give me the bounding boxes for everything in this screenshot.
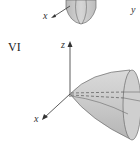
panel-label: VI [8, 41, 21, 53]
bottom-z-axis-label: z [61, 40, 65, 50]
figure-canvas [0, 0, 140, 155]
top-paraboloid [51, 0, 96, 24]
top-y-axis-label: y [131, 5, 135, 15]
bottom-x-axis-label: x [34, 114, 38, 124]
top-x-axis-label: x [43, 11, 47, 21]
bottom-paraboloid [42, 41, 140, 140]
